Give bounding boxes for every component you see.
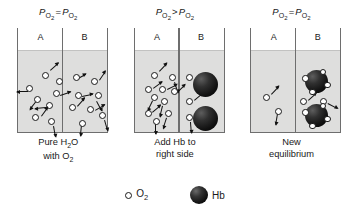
open-circle-icon	[125, 192, 132, 199]
panels-row: PO2=PO2 A B Pure H2O with O2 PO2>PO2	[0, 0, 350, 175]
o2-molecule	[56, 78, 63, 85]
hemoglobin-molecule	[193, 106, 218, 131]
panel-2-header: PO2>PO2	[117, 6, 234, 21]
panel-2-po2-right: PO2	[179, 6, 194, 17]
panel-2-chamber-a-label: A	[135, 32, 180, 42]
panel-3-vessel: A B	[250, 28, 341, 133]
panel-2-po2-left: PO2	[156, 6, 171, 17]
bound-o2-molecule	[309, 123, 315, 129]
panel-2-vessel: A B	[134, 28, 225, 133]
panel-3-chamber-a-label: A	[251, 32, 296, 42]
bound-o2-molecule	[320, 103, 326, 109]
o2-molecule	[186, 98, 193, 105]
o2-molecule	[73, 74, 80, 81]
panel-1-vessel: A B	[17, 28, 108, 133]
panel-1-chamber-a-label: A	[18, 32, 63, 42]
o2-molecule	[186, 74, 193, 81]
o2-molecule	[95, 92, 102, 99]
panel-pure-water: PO2=PO2 A B Pure H2O with O2	[0, 0, 117, 175]
bound-o2-molecule	[302, 75, 308, 81]
motion-arrow	[190, 122, 192, 133]
bound-o2-molecule	[302, 109, 308, 115]
panel-1-po2-right: PO2	[62, 6, 77, 17]
o2-molecule	[165, 110, 172, 117]
o2-molecule	[99, 112, 106, 119]
bound-o2-molecule	[309, 89, 315, 95]
panel-3-caption-line2: equilibrium	[269, 149, 314, 159]
o2-molecule	[32, 114, 39, 121]
o2-molecule	[53, 90, 60, 97]
o2-molecule	[34, 96, 41, 103]
panel-2-caption-line1: Add Hb to	[154, 137, 195, 147]
o2-molecule	[145, 86, 152, 93]
o2-molecule	[26, 85, 33, 92]
panel-3-po2-left: PO2	[272, 6, 287, 17]
o2-molecule	[171, 88, 178, 95]
panel-1-caption-line2: with O2	[43, 151, 73, 161]
panel-1-po2-left: PO2	[39, 6, 54, 17]
bound-o2-molecule	[324, 82, 330, 88]
panel-1-header: PO2=PO2	[0, 6, 117, 21]
bound-o2-molecule	[320, 69, 326, 75]
oxygen-hemoglobin-equilibrium-figure: PO2=PO2 A B Pure H2O with O2 PO2>PO2	[0, 0, 350, 213]
o2-molecule	[91, 78, 98, 85]
panel-1-chamber-b-label: B	[62, 32, 107, 42]
legend-item-hb: Hb	[190, 186, 225, 204]
o2-molecule	[151, 72, 158, 79]
filled-sphere-icon	[190, 186, 208, 204]
panel-1-relation: =	[54, 6, 62, 17]
panel-2-caption: Add Hb to right side	[117, 137, 234, 160]
panel-new-equilibrium: PO2=PO2 A B New equilibrium	[233, 0, 350, 175]
panel-2-relation: >	[171, 6, 179, 17]
figure-legend: O2 Hb	[0, 181, 350, 209]
panel-3-chamber-b-label: B	[295, 32, 340, 42]
o2-molecule	[69, 104, 76, 111]
panel-1-caption: Pure H2O with O2	[0, 137, 117, 166]
panel-3-po2-right: PO2	[295, 6, 310, 17]
legend-o2-label: O2	[136, 188, 148, 202]
legend-item-o2: O2	[125, 188, 148, 202]
panel-2-divider	[178, 28, 179, 132]
panel-3-caption-line1: New	[282, 137, 301, 147]
o2-molecule	[151, 94, 158, 101]
o2-molecule	[153, 118, 160, 125]
panel-1-caption-line1: Pure H2O	[38, 137, 78, 147]
o2-molecule	[48, 118, 55, 125]
o2-molecule	[186, 114, 193, 121]
o2-molecule	[87, 106, 94, 113]
o2-molecule	[145, 110, 152, 117]
panel-3-caption: New equilibrium	[233, 137, 350, 160]
legend-hb-label: Hb	[212, 190, 225, 201]
o2-molecule	[79, 120, 86, 127]
panel-3-header: PO2=PO2	[233, 6, 350, 21]
panel-add-hb: PO2>PO2 A B Add Hb to right side	[117, 0, 234, 175]
bound-o2-molecule	[324, 116, 330, 122]
panel-3-divider	[295, 28, 296, 132]
o2-molecule	[159, 86, 166, 93]
o2-molecule	[169, 74, 176, 81]
hemoglobin-molecule	[193, 72, 218, 97]
o2-molecule	[42, 72, 49, 79]
panel-2-chamber-b-label: B	[179, 32, 224, 42]
panel-2-caption-line2: right side	[156, 149, 194, 159]
